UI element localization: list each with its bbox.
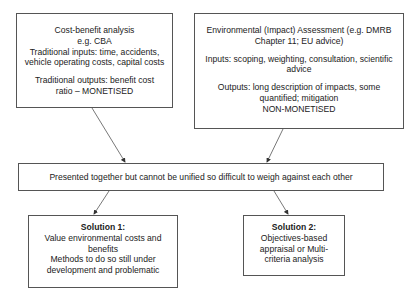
solution1-heading: Solution 1:	[29, 222, 177, 233]
eia-outputs-line: quantified; mitigation	[195, 93, 403, 104]
eia-outputs-line: NON-MONETISED	[195, 104, 403, 115]
combined-presentation-box: Presented together but cannot be unified…	[18, 163, 384, 191]
eia-inputs-line: Inputs: scoping, weighting, consultation…	[195, 54, 403, 65]
arrow-eia-to-middle	[267, 129, 283, 162]
arrow-cba-to-middle	[92, 108, 125, 162]
cba-box: Cost-benefit analysis e.g. CBA Tradition…	[16, 13, 173, 108]
solution2-heading: Solution 2:	[244, 222, 344, 233]
solution1-line: Methods to do so still under	[29, 254, 177, 265]
solution2-line: criteria analysis	[244, 254, 344, 265]
eia-inputs-line: advice	[195, 64, 403, 75]
eia-box: Environmental (Impact) Assessment (e.g. …	[194, 13, 404, 129]
solution1-line: Value environmental costs and	[29, 233, 177, 244]
arrow-middle-to-solution1	[94, 191, 109, 214]
eia-title-line: Environmental (Impact) Assessment (e.g. …	[195, 25, 403, 36]
solution2-line: Objectives-based	[244, 233, 344, 244]
solution1-line: benefits	[29, 244, 177, 255]
combined-presentation-text: Presented together but cannot be unified…	[19, 172, 383, 183]
solution2-line: appraisal or Multi-	[244, 244, 344, 255]
cba-line: e.g. CBA	[17, 36, 172, 47]
solution1-line: development and problematic	[29, 265, 177, 276]
eia-outputs-line: Outputs: long description of impacts, so…	[195, 82, 403, 93]
arrow-middle-to-solution2	[274, 191, 288, 214]
eia-title-line: Chapter 11; EU advice)	[195, 36, 403, 47]
solution2-box: Solution 2: Objectives-based appraisal o…	[243, 215, 345, 276]
solution1-box: Solution 1: Value environmental costs an…	[28, 215, 178, 288]
cba-outputs-line: Traditional outputs: benefit cost	[17, 75, 172, 86]
cba-line: Traditional inputs: time, accidents,	[17, 47, 172, 58]
cba-outputs-line: ratio – MONETISED	[17, 86, 172, 97]
cba-line: vehicle operating costs, capital costs	[17, 57, 172, 68]
cba-line: Cost-benefit analysis	[17, 25, 172, 36]
